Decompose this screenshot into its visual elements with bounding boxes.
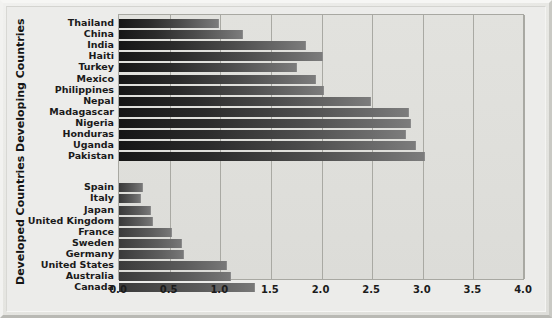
bar-row[interactable] — [119, 228, 525, 237]
category-label-italy: Italy — [0, 193, 114, 202]
bar-spain[interactable] — [119, 183, 143, 192]
bar-philippines[interactable] — [119, 86, 324, 95]
bar-honduras[interactable] — [119, 130, 406, 139]
category-label-canada: Canada — [0, 282, 114, 291]
x-tick-1.0: 1.0 — [210, 284, 228, 295]
bar-rows — [119, 15, 523, 279]
bar-row[interactable] — [119, 130, 525, 139]
bar-row[interactable] — [119, 97, 525, 106]
bar-row[interactable] — [119, 239, 525, 248]
bar-france[interactable] — [119, 228, 172, 237]
bar-india[interactable] — [119, 41, 306, 50]
bar-row[interactable] — [119, 261, 525, 270]
category-label-mexico: Mexico — [0, 74, 114, 83]
category-label-india: India — [0, 40, 114, 49]
bar-row[interactable] — [119, 19, 525, 28]
x-tick-4.0: 4.0 — [514, 284, 532, 295]
bar-row[interactable] — [119, 75, 525, 84]
category-label-pakistan: Pakistan — [0, 151, 114, 160]
x-tick-3.5: 3.5 — [464, 284, 482, 295]
bar-germany[interactable] — [119, 250, 184, 259]
bar-uganda[interactable] — [119, 141, 416, 150]
bar-row[interactable] — [119, 250, 525, 259]
x-tick-0.5: 0.5 — [160, 284, 178, 295]
bar-nigeria[interactable] — [119, 119, 411, 128]
bar-mexico[interactable] — [119, 75, 316, 84]
category-label-spain: Spain — [0, 182, 114, 191]
category-label-turkey: Turkey — [0, 62, 114, 71]
category-label-haiti: Haiti — [0, 51, 114, 60]
x-tick-0.0: 0.0 — [109, 284, 127, 295]
bar-canada[interactable] — [119, 283, 255, 292]
bar-row[interactable] — [119, 272, 525, 281]
category-label-philippines: Philippines — [0, 85, 114, 94]
x-tick-2.0: 2.0 — [312, 284, 330, 295]
bar-row[interactable] — [119, 108, 525, 117]
category-label-china: China — [0, 29, 114, 38]
category-label-germany: Germany — [0, 249, 114, 258]
category-label-france: France — [0, 227, 114, 236]
category-label-nepal: Nepal — [0, 96, 114, 105]
x-tick-1.5: 1.5 — [261, 284, 279, 295]
category-label-sweden: Sweden — [0, 238, 114, 247]
bar-united-states[interactable] — [119, 261, 227, 270]
category-label-japan: Japan — [0, 205, 114, 214]
bar-madagascar[interactable] — [119, 108, 409, 117]
bar-china[interactable] — [119, 30, 243, 39]
bar-row[interactable] — [119, 30, 525, 39]
bar-turkey[interactable] — [119, 63, 297, 72]
bar-united-kingdom[interactable] — [119, 217, 153, 226]
bar-australia[interactable] — [119, 272, 231, 281]
bar-sweden[interactable] — [119, 239, 182, 248]
category-label-australia: Australia — [0, 271, 114, 280]
category-label-thailand: Thailand — [0, 18, 114, 27]
bar-row[interactable] — [119, 194, 525, 203]
bar-row[interactable] — [119, 141, 525, 150]
category-label-nigeria: Nigeria — [0, 118, 114, 127]
chart-frame: Developing Countries Developed Countries… — [0, 0, 552, 318]
bar-row[interactable] — [119, 63, 525, 72]
bar-haiti[interactable] — [119, 52, 323, 61]
bar-row[interactable] — [119, 183, 525, 192]
x-tick-3.0: 3.0 — [413, 284, 431, 295]
x-tick-2.5: 2.5 — [362, 284, 380, 295]
plot-area — [118, 14, 524, 280]
bar-row[interactable] — [119, 119, 525, 128]
category-label-united-states: United States — [0, 260, 114, 269]
category-label-united-kingdom: United Kingdom — [0, 216, 114, 225]
bar-row[interactable] — [119, 217, 525, 226]
bar-italy[interactable] — [119, 194, 141, 203]
bar-row[interactable] — [119, 52, 525, 61]
bar-row[interactable] — [119, 206, 525, 215]
category-label-honduras: Honduras — [0, 129, 114, 138]
bar-nepal[interactable] — [119, 97, 371, 106]
category-label-uganda: Uganda — [0, 140, 114, 149]
bar-row[interactable] — [119, 86, 525, 95]
bar-thailand[interactable] — [119, 19, 219, 28]
category-label-madagascar: Madagascar — [0, 107, 114, 116]
bar-row[interactable] — [119, 41, 525, 50]
bar-japan[interactable] — [119, 206, 151, 215]
bar-row[interactable] — [119, 152, 525, 161]
bar-pakistan[interactable] — [119, 152, 425, 161]
